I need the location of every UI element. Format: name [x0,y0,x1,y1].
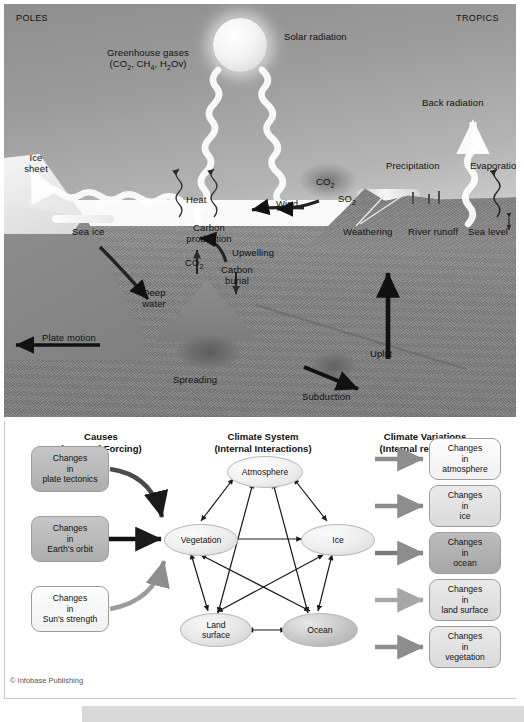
copyright-notice: © Infobase Publishing [10,676,83,685]
label-poles: POLES [16,13,48,24]
label-spreading: Spreading [173,374,217,385]
variation-label-ice: Changesinice [448,490,482,522]
component-ice[interactable]: Ice [301,524,375,556]
cause-label-suns-strength: ChangesinSun's strength [43,593,98,625]
variation-box-atmosphere[interactable]: Changesinatmosphere [429,438,501,480]
label-co2-seafloor: CO2 [185,257,203,272]
component-label-ocean: Ocean [307,625,332,635]
climate-system-panel: Causes(External Forcing) Climate System(… [4,421,520,699]
label-subduction: Subduction [302,391,351,402]
variation-box-vegetation[interactable]: Changesinvegetation [429,626,501,668]
label-solar-radiation: Solar radiation [284,31,347,42]
component-label-ice: Ice [332,535,343,545]
component-atmosphere[interactable]: Atmosphere [227,456,303,488]
label-deep-water: Deepwater [132,287,176,309]
component-ocean[interactable]: Ocean [282,613,358,647]
label-carbon-burial: Carbonburial [210,264,264,286]
label-greenhouse-gases: Greenhouse gases (CO2, CH4, H2Ov) [78,47,218,73]
cause-label-earths-orbit: ChangesinEarth's orbit [47,523,93,555]
component-land-surface[interactable]: Landsurface [180,613,252,647]
label-so2: SO2 [338,193,356,208]
component-vegetation[interactable]: Vegetation [164,524,238,556]
variation-label-atmosphere: Changesinatmosphere [442,443,487,475]
label-co2-atmosphere: CO2 [316,176,334,191]
label-sea-level: Sea level [468,226,508,237]
label-plate-motion: Plate motion [42,332,96,343]
footer-bar [82,706,524,722]
variation-box-ice[interactable]: Changesinice [429,485,501,527]
cause-box-earths-orbit[interactable]: ChangesinEarth's orbit [31,516,109,562]
label-back-radiation: Back radiation [422,97,484,108]
label-sea-ice: Sea ice [72,226,104,237]
label-tropics: TROPICS [456,13,499,24]
variation-box-land-surface[interactable]: Changesinland surface [429,579,501,621]
component-label-atmosphere: Atmosphere [242,467,288,477]
label-carbon-production: Carbonproduction [172,222,246,244]
cause-label-plate-tectonics: Changesinplate tectonics [43,453,98,485]
variation-label-vegetation: Changesinvegetation [445,631,485,663]
component-label-land-surface: Landsurface [202,620,230,640]
label-uplift: Uplift [370,348,392,359]
earth-cross-section-panel: POLES TROPICS Greenhouse gases (CO2, CH4… [4,4,520,417]
label-evaporation: Evaporation [470,160,520,171]
label-river-runoff: River runoff [408,226,458,237]
variation-box-ocean[interactable]: Changesinocean [429,532,501,574]
column-header-climate-system: Climate System(Internal Interactions) [173,431,353,455]
label-weathering: Weathering [343,226,392,237]
label-ice-sheet: Icesheet [16,152,56,174]
cause-box-plate-tectonics[interactable]: Changesinplate tectonics [31,446,109,492]
label-upwelling: Upwelling [232,247,274,258]
right-margin [516,0,524,706]
variation-label-land-surface: Changesinland surface [442,584,489,616]
label-heat: Heat [186,194,206,205]
cause-box-suns-strength[interactable]: ChangesinSun's strength [31,586,109,632]
label-wind: Wind [276,198,298,209]
climate-diagram-page: POLES TROPICS Greenhouse gases (CO2, CH4… [0,0,524,722]
label-precipitation: Precipitation [386,160,440,171]
component-label-vegetation: Vegetation [181,535,222,545]
variation-label-ocean: Changesinocean [448,537,482,569]
